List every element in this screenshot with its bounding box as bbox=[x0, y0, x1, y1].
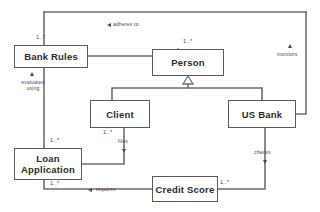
class-box-credit-score[interactable]: Credit Score bbox=[152, 176, 218, 202]
class-name-bank-rules: Bank Rules bbox=[24, 51, 78, 62]
association-label-adheres-to: adheres to bbox=[113, 21, 139, 27]
association-label-checks: checks bbox=[254, 149, 271, 155]
multiplicity-client-bottom: 1..* bbox=[103, 129, 112, 135]
class-name-client: Client bbox=[106, 109, 134, 120]
association-label-files: files bbox=[118, 138, 128, 144]
arrow-down-icon-checks bbox=[263, 160, 267, 164]
arrow-up-icon-evaluated-using bbox=[30, 72, 34, 76]
class-name-credit-score: Credit Score bbox=[156, 184, 215, 195]
multiplicity-loan-application-top: 1..* bbox=[50, 137, 59, 143]
class-name-person: Person bbox=[171, 57, 204, 68]
class-box-us-bank[interactable]: US Bank bbox=[228, 100, 296, 128]
class-box-bank-rules[interactable]: Bank Rules bbox=[14, 45, 88, 68]
generalization-triangle-icon bbox=[183, 76, 193, 84]
arrow-left-icon-adheres-to bbox=[107, 23, 111, 27]
association-label-evaluated-using: evaluated using bbox=[14, 79, 52, 91]
edge-generalization-bus bbox=[112, 84, 188, 100]
class-box-person[interactable]: Person bbox=[152, 49, 224, 76]
class-box-loan-application[interactable]: Loan Application bbox=[14, 148, 82, 180]
class-name-loan-application: Loan Application bbox=[21, 153, 75, 175]
association-label-requires: requires bbox=[96, 186, 116, 192]
multiplicity-bank-rules-top: 1..* bbox=[36, 34, 45, 40]
multiplicity-loan-application-bottom: 1..* bbox=[50, 180, 59, 186]
arrow-up-icon-monitors bbox=[288, 44, 292, 48]
arrow-down-icon-files bbox=[122, 149, 126, 153]
edge-generalization-bus-right bbox=[188, 88, 262, 100]
multiplicity-credit-score-right: 1..* bbox=[220, 179, 229, 185]
association-label-monitors: monitors bbox=[277, 51, 298, 57]
class-name-us-bank: US Bank bbox=[242, 109, 282, 120]
arrow-left-icon-requires bbox=[88, 188, 92, 192]
edge-monitors bbox=[296, 12, 306, 114]
uml-class-diagram: Bank Rules Person Client US Bank Loan Ap… bbox=[0, 0, 320, 212]
class-box-client[interactable]: Client bbox=[90, 100, 150, 128]
multiplicity-person-top: 1..* bbox=[183, 38, 192, 44]
